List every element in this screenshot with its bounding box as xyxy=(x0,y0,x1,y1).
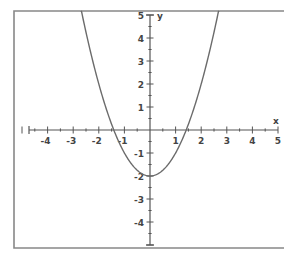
y-tick-labels: 54321-1-2-3-4 xyxy=(134,11,144,228)
y-tick-label: -2 xyxy=(134,172,144,182)
y-tick-label: -4 xyxy=(134,218,144,228)
graph-canvas: -4-3-2-112345 54321-1-2-3-4 x y xyxy=(0,0,284,255)
x-axis-label: x xyxy=(273,116,279,126)
y-axis-label: y xyxy=(157,11,163,21)
x-tick-label: 3 xyxy=(224,136,230,146)
x-tick-label: -4 xyxy=(41,136,51,146)
y-tick-label: 4 xyxy=(138,34,144,44)
x-tick-label: 1 xyxy=(172,136,178,146)
y-tick-label: 1 xyxy=(138,103,144,113)
x-tick-label: 5 xyxy=(275,136,281,146)
y-tick-label: 5 xyxy=(138,11,144,21)
x-tick-label: 2 xyxy=(198,136,204,146)
x-tick-label: -2 xyxy=(92,136,102,146)
x-tick-label: -3 xyxy=(66,136,76,146)
y-tick-label: -3 xyxy=(134,195,144,205)
y-tick-label: -1 xyxy=(134,149,144,159)
y-tick-label: 2 xyxy=(138,80,144,90)
x-tick-labels: -4-3-2-112345 xyxy=(41,136,282,146)
x-tick-label: 4 xyxy=(249,136,255,146)
y-tick-label: 3 xyxy=(138,57,144,67)
